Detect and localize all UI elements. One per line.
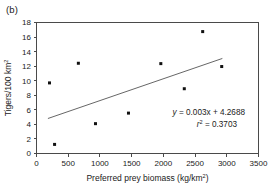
data-point	[127, 112, 130, 115]
y-tick-label: 0	[27, 149, 32, 158]
data-point	[159, 62, 162, 65]
data-point	[53, 143, 56, 146]
x-tick-label: 1500	[123, 159, 141, 168]
r-squared-value: r2 = 0.3703	[197, 119, 238, 129]
data-point	[48, 81, 51, 84]
y-tick-label: 6	[27, 106, 32, 115]
data-point	[77, 62, 80, 65]
y-tick-label: 8	[27, 91, 32, 100]
x-tick-label: 2500	[186, 159, 204, 168]
y-tick-label: 16	[22, 33, 31, 42]
x-tick-label: 0	[34, 159, 39, 168]
y-axis-title: Tigers/100 km2	[3, 60, 13, 117]
data-point	[183, 87, 186, 90]
y-tick-label: 12	[22, 62, 31, 71]
y-tick-label: 4	[27, 120, 32, 129]
y-tick-label: 18	[22, 18, 31, 27]
y-tick-label: 14	[22, 48, 31, 57]
figure-panel: (b) 024681012141618050010001500200025003…	[0, 0, 277, 188]
y-tick-label: 10	[22, 77, 31, 86]
x-tick-label: 2000	[154, 159, 172, 168]
data-point	[201, 30, 204, 33]
y-tick-label: 2	[27, 135, 32, 144]
regression-equation: y = 0.003x + 4.2688	[172, 108, 246, 117]
x-axis-title: Preferred prey biomass (kg/km2)	[86, 173, 208, 183]
data-point	[94, 122, 97, 125]
x-tick-label: 3000	[218, 159, 236, 168]
data-point	[220, 65, 223, 68]
x-tick-label: 1000	[91, 159, 109, 168]
x-tick-label: 3500	[250, 159, 268, 168]
scatter-plot: 0246810121416180500100015002000250030003…	[0, 0, 277, 188]
x-tick-label: 500	[62, 159, 76, 168]
